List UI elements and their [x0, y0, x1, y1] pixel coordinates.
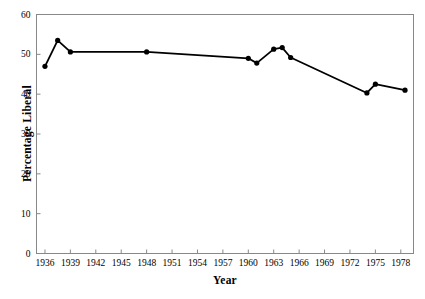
data-point-marker: [280, 45, 285, 50]
data-point-marker: [68, 49, 73, 54]
axes-frame: [37, 15, 414, 254]
data-point-marker: [288, 55, 293, 60]
line-chart-plot: [0, 0, 425, 299]
data-point-marker: [271, 47, 276, 52]
data-point-marker: [144, 49, 149, 54]
x-axis-title: Year: [36, 274, 414, 286]
axis-ticks: [37, 15, 401, 254]
series-line: [45, 40, 405, 93]
data-point-marker: [254, 61, 259, 66]
plot-frame: [37, 15, 414, 254]
chart-figure: 0102030405060 19361939194219451948195119…: [0, 0, 425, 299]
data-point-marker: [402, 88, 407, 93]
x-tick-label: 1978: [381, 258, 421, 268]
data-point-marker: [373, 82, 378, 87]
data-point-marker: [364, 90, 369, 95]
data-point-marker: [246, 56, 251, 61]
data-series-line: [45, 40, 405, 93]
data-point-marker: [55, 38, 60, 43]
y-axis-title: Percentage Liberal: [18, 14, 36, 253]
data-point-marker: [42, 64, 47, 69]
